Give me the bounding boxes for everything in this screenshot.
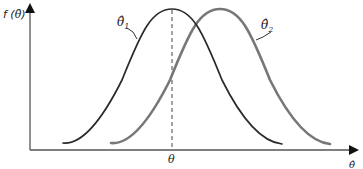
theta-tick-label: θ — [168, 153, 175, 166]
sampling-distribution-diagram: f (θ̂) θ̂1 θ̂2 θ θ̂ — [0, 0, 363, 169]
y-axis-arrow-icon — [25, 3, 35, 13]
x-axis-arrow-icon — [349, 145, 359, 155]
x-axis-label: θ̂ — [349, 159, 355, 169]
curve1-label: θ̂1 — [117, 15, 129, 31]
curve2-label: θ̂2 — [261, 18, 273, 34]
y-axis-label: f (θ̂) — [3, 8, 26, 21]
